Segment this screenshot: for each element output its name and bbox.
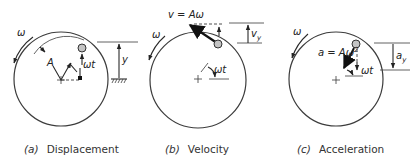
- center-cross: [332, 76, 340, 84]
- angle-label: ωt: [214, 64, 227, 75]
- rotating-mass: [78, 44, 86, 52]
- projection-foot: [78, 76, 82, 80]
- ground-hatch: [112, 79, 126, 83]
- caption-b: (b) Velocity: [165, 139, 229, 156]
- velocity-label: v = Aω: [168, 9, 204, 20]
- vy-label: vy: [251, 28, 262, 42]
- center-cross: [194, 75, 202, 83]
- omega-rotation-arrow-icon: [292, 34, 308, 58]
- omega-label: ω: [293, 26, 301, 37]
- rotating-mass: [214, 40, 222, 48]
- angle-arc-arrow-icon: [347, 70, 353, 75]
- panel-acceleration: ω a = Aω2 ωt ay (c) Acceleration: [289, 26, 410, 156]
- acceleration-label: a = Aω2: [318, 46, 359, 58]
- rotating-vector-diagram: ω A ωt y (a) Displacement ω: [0, 0, 416, 164]
- y-label: y: [121, 54, 129, 65]
- omega-label: ω: [152, 29, 160, 40]
- angle-label: ωt: [83, 59, 96, 70]
- angle-arrow-icon: [68, 63, 71, 68]
- radius-lines: [53, 64, 77, 80]
- ay-label: ay: [396, 50, 407, 64]
- panel-displacement: ω A ωt y (a) Displacement: [14, 27, 138, 156]
- angle-label: ωt: [361, 65, 374, 76]
- panel-velocity: ω v = Aω ωt vy (b) Velocity: [149, 9, 264, 156]
- inner-arc: [34, 36, 84, 54]
- angle-ray: [201, 63, 208, 72]
- caption-c: (c) Acceleration: [297, 139, 384, 156]
- inner-arc-arrow-icon: [40, 47, 45, 52]
- caption-a: (a) Displacement: [24, 139, 119, 156]
- omega-label: ω: [17, 27, 25, 38]
